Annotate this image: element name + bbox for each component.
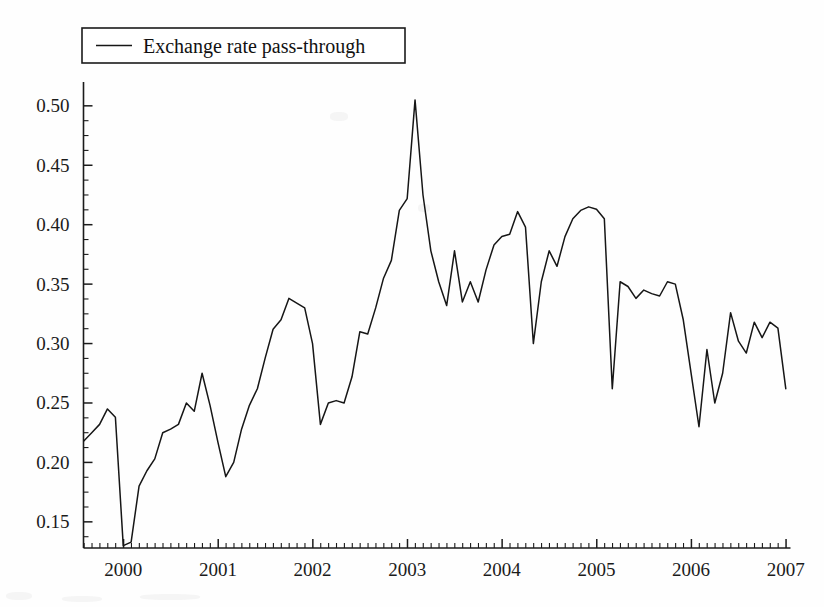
y-axis-tick-label: 0.50 xyxy=(36,95,69,116)
y-axis-tick-label: 0.45 xyxy=(36,155,69,176)
y-axis-tick-label: 0.15 xyxy=(36,511,69,532)
legend-label: Exchange rate pass-through xyxy=(143,35,365,58)
x-axis-tick-label: 2001 xyxy=(199,559,237,580)
x-axis-tick-label: 2003 xyxy=(388,559,426,580)
x-axis: 20002001200220032004200520062007 xyxy=(84,539,805,580)
y-axis-tick-label: 0.35 xyxy=(36,274,69,295)
x-axis-tick-label: 2002 xyxy=(294,559,332,580)
series-exchange-rate-pass-through xyxy=(84,100,786,546)
y-axis-tick-label: 0.25 xyxy=(36,392,69,413)
y-axis-tick-label: 0.40 xyxy=(36,214,69,235)
x-axis-tick-label: 2005 xyxy=(577,559,615,580)
x-axis-tick-label: 2004 xyxy=(483,559,522,580)
y-axis: 0.150.200.250.300.350.400.450.50 xyxy=(36,82,92,548)
y-axis-tick-label: 0.20 xyxy=(36,452,69,473)
x-axis-tick-label: 2006 xyxy=(672,559,710,580)
x-axis-tick-label: 2000 xyxy=(104,559,142,580)
y-axis-tick-label: 0.30 xyxy=(36,333,69,354)
chart-figure: 0.150.200.250.300.350.400.450.50 2000200… xyxy=(0,0,824,607)
line-chart: 0.150.200.250.300.350.400.450.50 2000200… xyxy=(0,0,824,607)
chart-legend: Exchange rate pass-through xyxy=(82,28,405,63)
x-axis-tick-label: 2007 xyxy=(767,559,805,580)
